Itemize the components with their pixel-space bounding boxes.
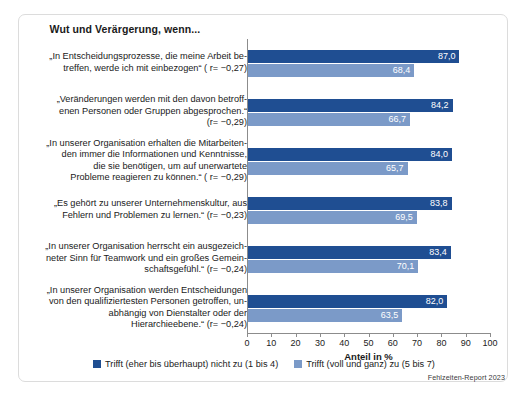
- bar-group: 83,869,5: [248, 197, 491, 224]
- x-tick-mark: [369, 333, 370, 337]
- legend-item: Trifft (eher bis überhaupt) nicht zu (1 …: [93, 359, 278, 369]
- x-tick-label: 0: [244, 338, 249, 348]
- category-labels: „In Entscheidungsprozesse, die meine Arb…: [19, 39, 247, 333]
- x-tick-label: 80: [436, 338, 446, 348]
- bar-zu: 63,5: [248, 309, 402, 322]
- x-tick-label: 30: [315, 338, 325, 348]
- bar-value-label: 63,5: [381, 309, 399, 322]
- bar-nicht-zu: 84,2: [248, 99, 453, 112]
- legend-label: Trifft (eher bis überhaupt) nicht zu (1 …: [105, 359, 278, 369]
- x-tick-mark: [296, 333, 297, 337]
- bar-value-label: 68,4: [393, 64, 411, 77]
- bar-group: 84,266,7: [248, 99, 491, 126]
- bar-value-label: 65,7: [386, 162, 404, 175]
- y-axis-line: [247, 39, 248, 333]
- bar-value-label: 82,0: [426, 295, 444, 308]
- x-tick-mark: [393, 333, 394, 337]
- x-tick-mark: [247, 333, 248, 337]
- x-tick-label: 60: [388, 338, 398, 348]
- bar-zu: 66,7: [248, 113, 410, 126]
- x-tick-mark: [417, 333, 418, 337]
- bar-group: 87,068,4: [248, 50, 491, 77]
- bar-zu: 70,1: [248, 260, 418, 273]
- x-tick-label: 90: [461, 338, 471, 348]
- category-label: „Veränderungen werden mit den davon betr…: [29, 94, 247, 129]
- x-tick-mark: [441, 333, 442, 337]
- x-tick-mark: [344, 333, 345, 337]
- plot-area: 0102030405060708090100 87,068,484,266,78…: [247, 39, 490, 333]
- bar-nicht-zu: 87,0: [248, 50, 459, 63]
- chart-title: Wut und Verärgerung, wenn...: [19, 23, 231, 35]
- bar-group: 84,065,7: [248, 148, 491, 175]
- x-tick-label: 50: [363, 338, 373, 348]
- bar-value-label: 83,8: [430, 197, 448, 210]
- category-label: „Es gehört zu unserer Unternehmenskultur…: [29, 198, 247, 221]
- bar-nicht-zu: 83,4: [248, 246, 451, 259]
- chart-legend: Trifft (eher bis überhaupt) nicht zu (1 …: [19, 359, 509, 369]
- category-label: „In unserer Organisation werden Entschei…: [29, 285, 247, 331]
- bar-zu: 65,7: [248, 162, 408, 175]
- x-tick-mark: [490, 333, 491, 337]
- x-tick-label: 100: [482, 338, 497, 348]
- x-tick-label: 40: [339, 338, 349, 348]
- x-tick-label: 70: [412, 338, 422, 348]
- bar-nicht-zu: 84,0: [248, 148, 452, 161]
- bar-value-label: 83,4: [429, 246, 447, 259]
- legend-swatch: [93, 360, 101, 368]
- bar-group: 82,063,5: [248, 295, 491, 322]
- bar-nicht-zu: 83,8: [248, 197, 452, 210]
- bar-value-label: 70,1: [397, 260, 415, 273]
- bar-zu: 69,5: [248, 211, 417, 224]
- chart-figure: Wut und Verärgerung, wenn... „In Entsche…: [18, 14, 508, 382]
- x-tick-mark: [320, 333, 321, 337]
- bar-group: 83,470,1: [248, 246, 491, 273]
- x-tick-label: 10: [266, 338, 276, 348]
- bar-value-label: 84,2: [431, 99, 449, 112]
- bar-nicht-zu: 82,0: [248, 295, 447, 308]
- legend-label: Trifft (voll und ganz) zu (5 bis 7): [306, 359, 435, 369]
- x-tick-mark: [466, 333, 467, 337]
- category-label: „In unserer Organisation herrscht ein au…: [29, 241, 247, 276]
- category-label: „In Entscheidungsprozesse, die meine Arb…: [29, 51, 247, 74]
- x-tick-mark: [271, 333, 272, 337]
- bar-zu: 68,4: [248, 64, 414, 77]
- bar-value-label: 66,7: [389, 113, 407, 126]
- x-tick-label: 20: [291, 338, 301, 348]
- category-label: „In unserer Organisation erhalten die Mi…: [29, 138, 247, 184]
- bar-value-label: 84,0: [431, 148, 449, 161]
- source-note: Fehlzeiten-Report 2023: [428, 373, 505, 382]
- legend-swatch: [294, 360, 302, 368]
- bar-value-label: 87,0: [438, 50, 456, 63]
- bar-value-label: 69,5: [395, 211, 413, 224]
- legend-item: Trifft (voll und ganz) zu (5 bis 7): [294, 359, 435, 369]
